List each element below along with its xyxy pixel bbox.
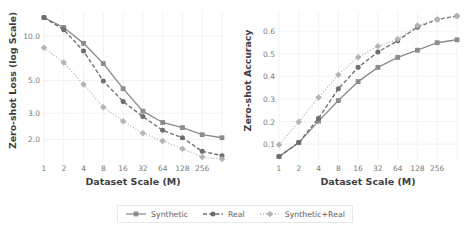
x-axis-tick: 8: [101, 164, 106, 173]
x-axis-label-loss: Dataset Scale (M): [44, 176, 222, 187]
x-axis-tick: 256: [195, 164, 209, 173]
x-axis-tick: 32: [373, 164, 383, 173]
x-axis-tick: 4: [316, 164, 321, 173]
data-point-marker: [121, 99, 126, 104]
y-axis-tick: 0.6: [263, 27, 275, 36]
data-point-marker: [355, 54, 361, 60]
data-point-marker: [140, 109, 145, 114]
data-point-marker: [101, 79, 106, 84]
data-point-marker: [316, 116, 321, 121]
data-point-marker: [276, 154, 281, 159]
data-point-marker: [101, 61, 106, 66]
legend-label: Synthetic+Real: [285, 210, 345, 219]
plot-canvas-accuracy: [279, 12, 457, 160]
x-axis-tick: 32: [138, 164, 148, 173]
grid-lines: [44, 12, 222, 160]
data-point-marker: [336, 86, 341, 91]
chart-panel-accuracy: Zero-shot Accuracy 0.10.20.30.40.50.6124…: [235, 0, 470, 205]
data-point-marker: [81, 41, 86, 46]
data-point-marker: [335, 72, 341, 78]
data-point-marker: [315, 94, 321, 100]
data-point-marker: [356, 65, 361, 70]
series-line: [279, 40, 457, 157]
y-axis-tick: 0.5: [263, 49, 275, 58]
x-axis-tick: 64: [393, 164, 403, 173]
data-point-marker: [455, 37, 460, 42]
legend-item-synthetic[interactable]: Synthetic: [125, 209, 188, 219]
series-line: [44, 48, 222, 159]
x-axis-tick: 1: [277, 164, 282, 173]
legend-swatch-icon: [259, 209, 281, 219]
x-axis-tick: 16: [118, 164, 128, 173]
figure-container: Zero-shot Loss (log Scale) 10.05.03.02.0…: [0, 0, 470, 237]
data-point-marker: [179, 145, 185, 151]
data-point-marker: [435, 40, 440, 45]
plot-canvas-loss: [44, 12, 222, 160]
y-axis-tick: 0.1: [263, 140, 275, 149]
data-point-marker: [180, 135, 185, 140]
data-point-marker: [180, 125, 185, 130]
series-line: [279, 16, 457, 145]
data-point-marker: [140, 130, 146, 136]
y-axis-tick: 0.4: [263, 72, 275, 81]
x-axis-tick: 16: [353, 164, 363, 173]
grid-lines: [279, 12, 457, 160]
data-point-marker: [375, 65, 380, 70]
x-axis-tick: 128: [410, 164, 424, 173]
data-point-marker: [375, 49, 380, 54]
data-point-marker: [200, 132, 205, 137]
data-point-marker: [41, 15, 46, 20]
data-point-marker: [356, 79, 361, 84]
data-point-marker: [199, 154, 205, 160]
x-axis-label-accuracy: Dataset Scale (M): [279, 176, 457, 187]
data-point-marker: [159, 138, 165, 144]
legend-item-real[interactable]: Real: [202, 209, 245, 219]
data-point-marker: [375, 43, 381, 49]
data-point-marker: [415, 48, 420, 53]
plot-area-loss: 10.05.03.02.01248163264128256: [44, 12, 222, 160]
y-axis-tick: 2.0: [28, 135, 40, 144]
legend-box: SyntheticRealSynthetic+Real: [117, 205, 353, 223]
x-axis-tick: 4: [81, 164, 86, 173]
x-axis-tick: 8: [336, 164, 341, 173]
data-point-marker: [81, 49, 86, 54]
legend-label: Synthetic: [151, 210, 188, 219]
series-line: [44, 18, 222, 156]
data-point-marker: [336, 98, 341, 103]
chart-svg: [279, 12, 457, 160]
data-point-marker: [140, 114, 145, 119]
legend-label: Real: [228, 210, 245, 219]
data-point-marker: [434, 16, 440, 22]
data-point-marker: [220, 135, 225, 140]
y-axis-tick: 5.0: [28, 76, 40, 85]
y-axis-tick: 0.3: [263, 94, 275, 103]
y-axis-tick: 0.2: [263, 117, 275, 126]
data-point-marker: [61, 27, 66, 32]
y-axis-label-loss: Zero-shot Loss (log Scale): [4, 0, 22, 160]
data-point-marker: [296, 140, 301, 145]
x-axis-tick: 64: [158, 164, 168, 173]
chart-legend: SyntheticRealSynthetic+Real: [0, 204, 470, 224]
chart-svg: [44, 12, 222, 160]
data-point-marker: [200, 149, 205, 154]
x-axis-tick: 2: [61, 164, 66, 173]
legend-swatch-icon: [202, 209, 224, 219]
x-axis-tick: 256: [430, 164, 444, 173]
x-axis-tick: 2: [296, 164, 301, 173]
data-point-marker: [395, 55, 400, 60]
chart-panel-loss: Zero-shot Loss (log Scale) 10.05.03.02.0…: [0, 0, 235, 205]
y-axis-tick: 10.0: [23, 31, 40, 40]
y-axis-tick: 3.0: [28, 109, 40, 118]
data-point-marker: [219, 156, 225, 162]
x-axis-tick: 1: [42, 164, 47, 173]
legend-swatch-icon: [125, 209, 147, 219]
data-point-marker: [160, 120, 165, 125]
y-axis-label-accuracy: Zero-shot Accuracy: [239, 0, 257, 160]
data-point-marker: [121, 86, 126, 91]
legend-item-synthetic-plus-real[interactable]: Synthetic+Real: [259, 209, 345, 219]
plot-area-accuracy: 0.10.20.30.40.50.61248163264128256: [279, 12, 457, 160]
data-point-marker: [454, 13, 460, 19]
data-point-marker: [160, 128, 165, 133]
x-axis-tick: 128: [175, 164, 189, 173]
